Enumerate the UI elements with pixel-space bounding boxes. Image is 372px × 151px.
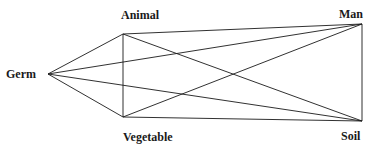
edge-animal-soil xyxy=(123,34,362,121)
edge-germ-vegetable xyxy=(48,74,123,117)
node-label-soil: Soil xyxy=(341,130,360,142)
node-label-germ: Germ xyxy=(6,68,36,80)
edge-vegetable-soil xyxy=(123,117,362,121)
diagram-canvas: Germ Animal Vegetable Man Soil xyxy=(0,0,372,151)
node-label-animal: Animal xyxy=(121,9,159,21)
edge-animal-man xyxy=(123,24,362,34)
edge-germ-soil xyxy=(48,74,362,121)
node-label-man: Man xyxy=(339,8,363,20)
node-label-vegetable: Vegetable xyxy=(123,131,173,143)
edges-layer xyxy=(0,0,372,151)
